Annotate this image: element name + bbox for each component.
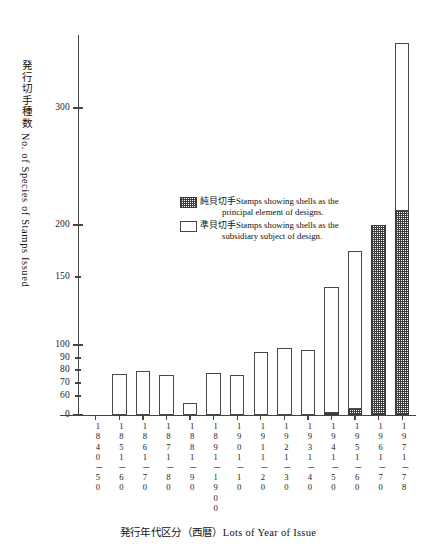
bar-1961-70	[371, 225, 386, 415]
x-tick-4	[189, 415, 190, 420]
bar-1951-60	[348, 251, 363, 415]
x-tick-9	[307, 415, 308, 420]
y-tick-100	[73, 344, 83, 345]
bar-1891-1900	[206, 373, 221, 415]
y-tick-label-90: 90	[42, 353, 70, 363]
bar-segment-subsidiary	[348, 251, 363, 409]
bar-segment-principal	[395, 211, 410, 415]
y-tick-label-80: 80	[42, 365, 70, 375]
y-tick-label-100: 100	[42, 340, 70, 350]
legend-swatch-hatched-icon	[180, 197, 197, 208]
bar-1881-90	[183, 403, 198, 415]
x-axis-label-3: 1871－80	[161, 421, 173, 493]
y-tick-label-60: 60	[42, 391, 70, 401]
bar-segment-subsidiary	[112, 374, 127, 415]
x-tick-5	[213, 415, 214, 420]
bar-1901-10	[230, 375, 245, 415]
legend-label-principal: 純貝切手Stamps showing shells as the princip…	[200, 196, 370, 217]
x-tick-11	[354, 415, 355, 420]
legend-en-subsidiary-line2: subsidiary subject of design.	[200, 231, 370, 242]
legend-en-subsidiary-line1: Stamps showing shells as the	[236, 220, 339, 230]
y-tick-label-0: 0	[42, 410, 70, 420]
x-axis-line	[60, 415, 416, 416]
x-tick-6	[237, 415, 238, 420]
bar-segment-subsidiary	[159, 375, 174, 415]
x-axis-title: 発行年代区分（西暦）Lots of Year of Issue	[0, 524, 436, 539]
x-tick-12	[378, 415, 379, 420]
bar-segment-principal	[371, 225, 386, 415]
legend-item-subsidiary: 準貝切手Stamps showing shells as the subsidi…	[180, 220, 370, 241]
x-tick-3	[166, 415, 167, 420]
x-tick-7	[260, 415, 261, 420]
x-tick-1	[119, 415, 120, 420]
chart-legend: 純貝切手Stamps showing shells as the princip…	[180, 196, 370, 244]
bar-segment-subsidiary	[301, 350, 316, 415]
bar-1921-30	[277, 348, 292, 415]
bar-1931-40	[301, 350, 316, 415]
y-tick-200	[73, 224, 83, 225]
y-tick-label-300: 300	[42, 103, 70, 113]
y-tick-300	[73, 107, 83, 108]
x-axis-label-11: 1951－60	[349, 421, 361, 493]
y-tick-label-70: 70	[42, 378, 70, 388]
legend-swatch-white-icon	[180, 221, 197, 232]
x-axis-label-2: 1861－70	[137, 421, 149, 493]
legend-label-subsidiary: 準貝切手Stamps showing shells as the subsidi…	[200, 220, 370, 241]
y-tick-label-150: 150	[42, 272, 70, 282]
x-axis-label-10: 1941－50	[326, 421, 338, 493]
bar-segment-subsidiary	[324, 287, 339, 414]
bar-1911-20	[254, 352, 269, 416]
x-tick-0	[95, 415, 96, 420]
bar-segment-subsidiary	[277, 348, 292, 415]
y-tick-60	[75, 395, 81, 396]
bar-segment-subsidiary	[254, 352, 269, 416]
x-axis-label-4: 1881－90	[184, 421, 196, 493]
x-tick-10	[331, 415, 332, 420]
y-tick-70	[75, 382, 81, 383]
bar-1851-60	[112, 374, 127, 415]
legend-jp-principal: 純貝切手	[200, 196, 236, 206]
legend-en-principal-line1: Stamps showing shells as the	[236, 196, 339, 206]
x-axis-label-7: 1911－20	[255, 421, 267, 493]
bar-segment-subsidiary	[230, 375, 245, 415]
x-tick-2	[142, 415, 143, 420]
x-axis-label-12: 1961－70	[373, 421, 385, 493]
y-tick-90	[75, 357, 81, 358]
bar-segment-subsidiary	[206, 373, 221, 415]
x-tick-13	[402, 415, 403, 420]
bar-1861-70	[136, 371, 151, 415]
bar-1941-50	[324, 287, 339, 415]
x-axis-label-5: 1891－1900	[208, 421, 220, 514]
bar-segment-subsidiary	[183, 403, 198, 415]
bar-segment-subsidiary	[136, 371, 151, 415]
bar-1971-78	[395, 43, 410, 415]
legend-item-principal: 純貝切手Stamps showing shells as the princip…	[180, 196, 370, 217]
legend-jp-subsidiary: 準貝切手	[200, 220, 236, 230]
x-axis-label-13: 1971－78	[396, 421, 408, 493]
x-axis-label-1: 1851－60	[113, 421, 125, 493]
chart-canvas: 発行切手種数 No. of Species of Stamps Issued 0…	[0, 0, 436, 557]
x-axis-label-9: 1931－40	[302, 421, 314, 493]
y-axis-title: 発行切手種数 No. of Species of Stamps Issued	[14, 60, 32, 390]
y-tick-80	[75, 369, 81, 370]
x-tick-8	[284, 415, 285, 420]
y-tick-0	[73, 414, 83, 415]
legend-en-principal-line2: principal element of designs.	[200, 207, 370, 218]
y-tick-150	[75, 276, 81, 277]
bar-1871-80	[159, 375, 174, 415]
x-axis-label-6: 1901－10	[231, 421, 243, 493]
x-axis-label-8: 1921－30	[278, 421, 290, 493]
bar-segment-subsidiary	[395, 43, 410, 211]
y-tick-label-200: 200	[42, 220, 70, 230]
x-axis-label-0: 1840－50	[90, 421, 102, 493]
